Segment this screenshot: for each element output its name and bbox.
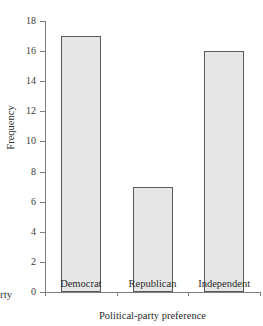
bar xyxy=(61,36,101,292)
x-category-label: Republican xyxy=(129,278,177,289)
y-tick-label: 8 xyxy=(31,165,36,178)
y-tick-label: 18 xyxy=(26,14,36,27)
y-axis-title: Frequency xyxy=(5,92,16,164)
y-tick: 2 xyxy=(40,262,45,263)
y-tick: 10 xyxy=(40,141,45,142)
y-tick-label: 0 xyxy=(31,285,36,298)
y-tick: 14 xyxy=(40,81,45,82)
x-category-label: Democrat xyxy=(60,278,101,289)
x-tick xyxy=(45,292,46,296)
y-tick: 16 xyxy=(40,51,45,52)
y-tick-label: 6 xyxy=(31,195,36,208)
y-tick: 18 xyxy=(40,21,45,22)
bar xyxy=(133,187,173,292)
bar-chart-figure: rty Frequency 024681012141618 DemocratRe… xyxy=(0,0,263,326)
x-tick xyxy=(117,292,118,296)
x-tick xyxy=(188,292,189,296)
x-category-label: Independent xyxy=(198,278,250,289)
clipped-text-fragment: rty xyxy=(0,288,12,300)
x-axis-line xyxy=(45,292,260,293)
x-tick xyxy=(260,292,261,296)
y-tick: 6 xyxy=(40,202,45,203)
y-tick-label: 2 xyxy=(31,255,36,268)
x-axis-title: Political-party preference xyxy=(45,310,260,321)
y-tick-label: 16 xyxy=(26,44,36,57)
y-tick-label: 14 xyxy=(26,74,36,87)
y-tick-label: 10 xyxy=(26,134,36,147)
bar xyxy=(204,51,244,292)
y-axis-line xyxy=(45,21,46,293)
y-tick: 12 xyxy=(40,111,45,112)
y-tick-label: 4 xyxy=(31,225,36,238)
y-tick: 8 xyxy=(40,172,45,173)
plot-area: 024681012141618 xyxy=(45,21,260,293)
y-tick: 4 xyxy=(40,232,45,233)
y-tick-label: 12 xyxy=(26,104,36,117)
